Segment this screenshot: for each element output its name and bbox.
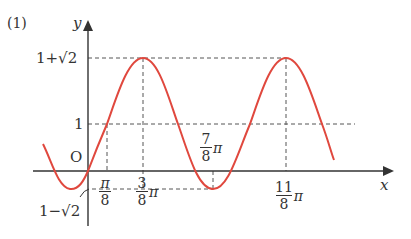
y-tick-max: 1+√2 xyxy=(36,51,77,66)
x-tick-pi-8: π8 xyxy=(99,176,111,207)
guide-lines xyxy=(88,58,355,189)
y-axis-arrow-icon xyxy=(83,20,93,31)
x-tick-11pi-8: 118π xyxy=(275,180,303,211)
y-tick-min: 1−√2 xyxy=(39,204,80,219)
y-axis-label: y xyxy=(73,16,81,31)
axes xyxy=(33,26,390,226)
x-axis-arrow-icon xyxy=(383,166,394,176)
x-tick-3pi-8: 38π xyxy=(136,176,158,207)
y-tick-one: 1 xyxy=(74,117,84,132)
problem-label: (1) xyxy=(7,16,27,30)
origin-label: O xyxy=(70,150,82,165)
x-axis-label: x xyxy=(380,178,388,193)
x-tick-7pi-8: 78π xyxy=(200,132,222,163)
